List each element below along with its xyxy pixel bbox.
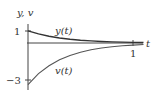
chart: y, v t 1 −3 1 y(t) v(t) — [0, 0, 154, 98]
tick-label-y-neg3: −3 — [6, 75, 21, 86]
y-axis-label: y, v — [16, 7, 34, 18]
tick-label-t-1: 1 — [130, 48, 136, 59]
series-y-curve — [28, 31, 144, 43]
series-label-v: v(t) — [55, 65, 73, 76]
t-axis-label: t — [146, 38, 151, 49]
tick-label-y-1: 1 — [14, 26, 20, 37]
series-v-curve — [28, 45, 144, 85]
series-label-y: y(t) — [54, 25, 73, 36]
